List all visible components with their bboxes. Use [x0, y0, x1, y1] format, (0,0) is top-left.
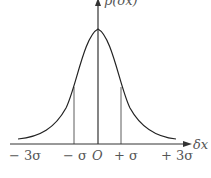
x-axis-arrow-icon — [183, 141, 192, 147]
y-axis-arrow-icon — [95, 0, 101, 6]
tick-minus-sigma: − σ — [63, 149, 87, 162]
tick-plus-3-sigma: + 3σ — [161, 149, 193, 162]
bell-curve — [18, 29, 176, 139]
tick-origin: O — [92, 149, 103, 162]
y-axis-label: p(δx) — [104, 0, 138, 7]
tick-minus-3-sigma: − 3σ — [9, 149, 41, 162]
x-axis-label: δx — [193, 138, 208, 151]
tick-plus-sigma: + σ — [114, 149, 138, 162]
